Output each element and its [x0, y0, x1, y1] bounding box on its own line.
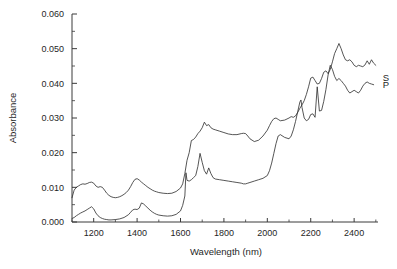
x-tick-label: 1800 — [214, 228, 234, 238]
y-tick-labels: 0.0000.0100.0200.0300.0400.0500.060 — [41, 9, 64, 227]
x-tick-label: 2400 — [344, 228, 364, 238]
spectrum-line-P — [72, 65, 374, 220]
series-label-P: P — [383, 79, 389, 90]
y-tick-label: 0.010 — [41, 183, 64, 193]
x-tick-label: 1600 — [170, 228, 190, 238]
axes-group — [72, 14, 378, 222]
x-tick-labels: 1200140016001800200022002400 — [84, 228, 364, 238]
y-tick-label: 0.040 — [41, 79, 64, 89]
series-inline-legend: SP — [383, 72, 389, 91]
y-tick-label: 0.020 — [41, 148, 64, 158]
x-tick-label: 1200 — [84, 228, 104, 238]
y-tick-label: 0.060 — [41, 9, 64, 19]
spectroscopy-figure: 0.0000.0100.0200.0300.0400.0500.060 1200… — [0, 0, 397, 269]
x-tick-label: 2000 — [257, 228, 277, 238]
x-tick-label: 2200 — [301, 228, 321, 238]
x-axis-title: Wavelength (nm) — [190, 246, 262, 257]
x-tick-label: 1400 — [127, 228, 147, 238]
y-tick-label: 0.000 — [41, 217, 64, 227]
y-tick-label: 0.050 — [41, 44, 64, 54]
y-axis-title: Absorbance — [7, 93, 18, 144]
ticks-group — [72, 14, 376, 222]
y-tick-label: 0.030 — [41, 113, 64, 123]
series-lines-group — [72, 43, 376, 219]
absorbance-spectrum-chart: 0.0000.0100.0200.0300.0400.0500.060 1200… — [0, 0, 397, 269]
